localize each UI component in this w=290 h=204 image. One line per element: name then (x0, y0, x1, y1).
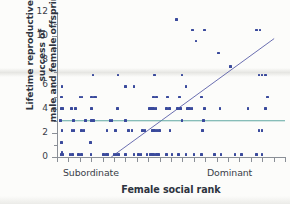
data-point (177, 153, 180, 156)
plot-area (57, 12, 285, 157)
data-point (153, 74, 156, 77)
data-point (61, 85, 64, 88)
data-point (158, 129, 161, 132)
x-axis-tick (171, 157, 172, 162)
x-axis-tick (239, 157, 240, 162)
data-point (229, 65, 232, 68)
x-axis-tick (182, 157, 183, 162)
y-axis-title-line1: Lifetime reproductive success of (24, 0, 47, 110)
x-axis-tick (91, 157, 92, 162)
data-point (89, 141, 92, 144)
x-axis-tick (274, 157, 275, 162)
data-point (165, 153, 168, 156)
data-point (201, 129, 204, 132)
data-point (116, 107, 119, 110)
data-point (264, 107, 267, 110)
data-point (84, 119, 87, 122)
x-axis-tick (217, 157, 218, 162)
data-point (247, 107, 250, 110)
x-axis-category-label-dominant: Dominant (207, 167, 252, 178)
data-point (181, 119, 184, 122)
data-point (61, 151, 64, 154)
x-axis-tick (194, 157, 195, 162)
y-axis-title-line2: male and female offspring (47, 0, 58, 122)
data-point (133, 153, 136, 156)
scan-artifact-band-bottom (0, 196, 290, 204)
data-point (111, 119, 114, 122)
data-point (175, 18, 178, 21)
x-axis-tick (57, 157, 58, 162)
x-axis-tick (251, 157, 252, 162)
data-point (70, 107, 73, 110)
data-point (62, 107, 65, 110)
data-point (59, 119, 62, 122)
data-point (72, 119, 75, 122)
data-point (73, 129, 76, 132)
data-point (60, 141, 63, 144)
data-point (74, 107, 77, 110)
data-point (234, 153, 237, 156)
x-axis-tick (228, 157, 229, 162)
data-point (171, 153, 174, 156)
data-point (90, 107, 93, 110)
data-point (71, 153, 74, 156)
x-axis-tick (80, 157, 81, 162)
data-point (144, 129, 147, 132)
data-point (258, 74, 261, 77)
data-point (264, 74, 267, 77)
y-axis-tick-label: 0 (24, 152, 48, 161)
x-axis-tick (285, 157, 286, 162)
data-point (117, 153, 120, 156)
x-axis-tick (137, 157, 138, 162)
data-point (202, 119, 205, 122)
data-point (200, 153, 203, 156)
data-point (255, 153, 258, 156)
y-axis-title: Lifetime reproductive success of male an… (24, 0, 59, 130)
data-point (61, 129, 64, 132)
data-point (92, 74, 95, 77)
data-point (193, 153, 196, 156)
data-point (168, 107, 171, 110)
data-point (213, 153, 216, 156)
data-point (157, 153, 160, 156)
data-point (124, 119, 127, 122)
data-point (124, 85, 127, 88)
data-point (114, 129, 117, 132)
data-point (106, 129, 109, 132)
x-axis-category-label-subordinate: Subordinate (63, 167, 119, 178)
x-axis-tick (148, 157, 149, 162)
data-point (181, 74, 184, 77)
x-axis-tick (103, 157, 104, 162)
data-point (169, 129, 172, 132)
data-point (219, 107, 222, 110)
data-point (131, 129, 134, 132)
scatter-plot-figure: 024681012 Lifetime reproductive success … (0, 0, 290, 204)
data-point (92, 119, 95, 122)
data-point (179, 107, 182, 110)
x-axis-tick (160, 157, 161, 162)
data-point (117, 74, 120, 77)
data-point (240, 153, 243, 156)
data-point (107, 153, 110, 156)
trend-lines (57, 12, 285, 157)
data-point (124, 153, 127, 156)
regression-line (111, 39, 274, 157)
data-point (133, 85, 136, 88)
x-axis-tick (68, 157, 69, 162)
x-axis-tick (262, 157, 263, 162)
data-point (220, 153, 223, 156)
data-point (258, 129, 261, 132)
data-point (155, 107, 158, 110)
x-axis-title: Female social rank (57, 184, 285, 195)
x-axis-tick (205, 157, 206, 162)
data-point (127, 129, 130, 132)
data-point (80, 153, 83, 156)
x-axis-tick (125, 157, 126, 162)
x-axis-tick (114, 157, 115, 162)
data-point (203, 107, 206, 110)
